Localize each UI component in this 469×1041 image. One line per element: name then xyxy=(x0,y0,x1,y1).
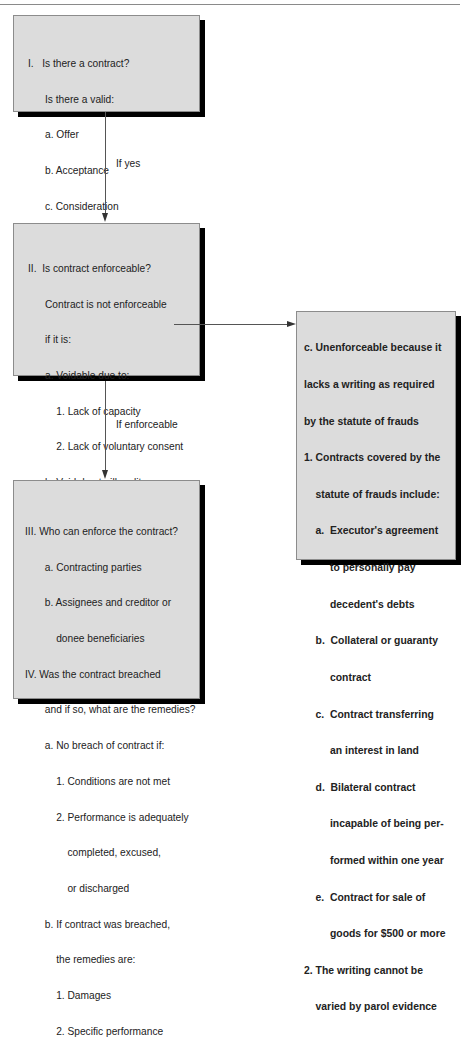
box4-line: c. Contract transferring xyxy=(304,709,445,721)
box3-line: a. No breach of contract if: xyxy=(25,740,195,752)
box3-line: completed, excused, xyxy=(25,847,195,859)
arrow-down-icon xyxy=(102,213,108,222)
box4-line: an interest in land xyxy=(304,745,445,757)
box3-line: a. Contracting parties xyxy=(25,562,195,574)
box3-line: 1. Conditions are not met xyxy=(25,776,195,788)
box4-line: varied by parol evidence xyxy=(304,1001,445,1013)
box3-line: IV. Was the contract breached xyxy=(25,669,195,681)
arrow-right-icon xyxy=(287,321,296,327)
box4-line: to personally pay xyxy=(304,562,445,574)
connector-yes-line xyxy=(105,112,106,214)
box3-line: 1. Damages xyxy=(25,990,195,1002)
box4-line: lacks a writing as required xyxy=(304,379,445,391)
box3-line: or discharged xyxy=(25,883,195,895)
page-top-rule xyxy=(0,4,460,5)
box3-line: b. Assignees and creditor or xyxy=(25,597,195,609)
box4-line: statute of frauds include: xyxy=(304,489,445,501)
box4-line: goods for $500 or more xyxy=(304,928,445,940)
box4-line: incapable of being per- xyxy=(304,818,445,830)
box1-line: a. Offer xyxy=(28,129,129,141)
box1-line: I. Is there a contract? xyxy=(28,58,129,70)
box2-line: II. Is contract enforceable? xyxy=(28,263,183,275)
connector-yes-label: If yes xyxy=(116,158,140,169)
box3-line: 2. Performance is adequately xyxy=(25,812,195,824)
box4-line: by the statute of frauds xyxy=(304,416,445,428)
box3-line: b. If contract was breached, xyxy=(25,919,195,931)
connector-enforceable-label: If enforceable xyxy=(116,419,178,430)
box1-line: b. Acceptance xyxy=(28,165,129,177)
box2-line: Contract is not enforceable xyxy=(28,299,183,311)
box1-line: Is there a valid: xyxy=(28,94,129,106)
box3-line: donee beneficiaries xyxy=(25,633,195,645)
box4-text: c. Unenforceable because it lacks a writ… xyxy=(304,318,445,1026)
box1-line: c. Consideration xyxy=(28,201,129,213)
box3-line: III. Who can enforce the contract? xyxy=(25,526,195,538)
arrow-down-icon xyxy=(102,470,108,479)
box2-line: if it is: xyxy=(28,334,183,346)
connector-enforceable-line xyxy=(105,381,106,471)
box4-line: 1. Contracts covered by the xyxy=(304,452,445,464)
box3-line: 2. Specific performance xyxy=(25,1026,195,1038)
box3-line: the remedies are: xyxy=(25,954,195,966)
box4-line: d. Bilateral contract xyxy=(304,782,445,794)
box4-line: e. Contract for sale of xyxy=(304,892,445,904)
box4-line: c. Unenforceable because it xyxy=(304,342,445,354)
box3-text: III. Who can enforce the contract? a. Co… xyxy=(25,502,195,1041)
box4-line: 2. The writing cannot be xyxy=(304,965,445,977)
box4-line: a. Executor's agreement xyxy=(304,525,445,537)
connector-statute-line xyxy=(174,324,288,325)
box4-line: formed within one year xyxy=(304,855,445,867)
box3-line: and if so, what are the remedies? xyxy=(25,704,195,716)
box1-text: I. Is there a contract? Is there a valid… xyxy=(28,34,129,225)
box4-line: decedent's debts xyxy=(304,599,445,611)
box4-line: b. Collateral or guaranty xyxy=(304,635,445,647)
box4-line: contract xyxy=(304,672,445,684)
